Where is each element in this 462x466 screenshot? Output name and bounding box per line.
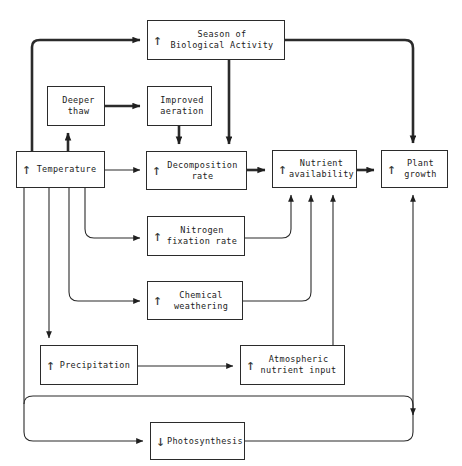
trend-up-icon: ↑ [278, 162, 287, 177]
node-precipitation[interactable]: ↑ Precipitation [40, 345, 138, 385]
node-label: Nutrient availability [289, 158, 358, 180]
node-label: Temperature [33, 164, 104, 175]
trend-up-icon: ↑ [153, 33, 162, 48]
trend-up-icon: ↑ [46, 358, 55, 373]
node-label: Photosynthesis [167, 436, 247, 447]
node-season-of-biological-activity[interactable]: ↑ Season of Biological Activity [147, 20, 285, 60]
edge-temperature-to-chemical-weathering [69, 188, 140, 301]
node-label: Plant growth [398, 158, 447, 180]
node-label: Nitrogen fixation rate [164, 225, 244, 247]
node-plant-growth[interactable]: ↑ Plant growth [381, 150, 448, 188]
trend-up-icon: ↑ [153, 229, 162, 244]
edge-chemical-weathering-to-nutrient [243, 195, 311, 301]
node-label: Season of Biological Activity [164, 29, 284, 51]
trend-up-icon: ↑ [387, 162, 396, 177]
node-label: Improved aeration [153, 95, 211, 117]
trend-up-icon: ↑ [246, 358, 255, 373]
node-improved-aeration[interactable]: Improved aeration [147, 86, 212, 126]
flow-diagram: ↑ Season of Biological Activity Deeper t… [0, 0, 462, 466]
node-atmospheric-nutrient-input[interactable]: ↑ Atmospheric nutrient input [240, 345, 345, 385]
trend-up-icon: ↑ [22, 162, 31, 177]
node-photosynthesis[interactable]: ↓ Photosynthesis [150, 422, 245, 460]
node-temperature[interactable]: ↑ Temperature [16, 151, 105, 188]
edge-season-to-plant-growth [285, 40, 413, 143]
node-label: Decomposition rate [163, 160, 246, 182]
node-label: Deeper thaw [53, 95, 104, 117]
node-deeper-thaw[interactable]: Deeper thaw [47, 86, 105, 126]
edge-temperature-to-nitrogen-fixation [85, 188, 140, 238]
node-label: Atmospheric nutrient input [257, 354, 344, 376]
node-chemical-weathering[interactable]: ↑ Chemical weathering [147, 281, 243, 320]
node-decomposition-rate[interactable]: ↑ Decomposition rate [146, 151, 247, 190]
node-label: Chemical weathering [164, 290, 242, 312]
node-nutrient-availability[interactable]: ↑ Nutrient availability [272, 150, 357, 188]
edge-nitrogen-fixation-to-nutrient [245, 195, 291, 238]
edge-temperature-to-photosynthesis [24, 188, 143, 441]
trend-up-icon: ↑ [152, 163, 161, 178]
edge-photosynthesis-to-plant-growth [245, 195, 413, 441]
node-nitrogen-fixation-rate[interactable]: ↑ Nitrogen fixation rate [147, 216, 245, 256]
node-label: Precipitation [57, 360, 137, 371]
edge-temperature-feedback-to-plant-growth [24, 396, 413, 415]
trend-up-icon: ↑ [153, 293, 162, 308]
trend-down-icon: ↓ [156, 434, 165, 449]
